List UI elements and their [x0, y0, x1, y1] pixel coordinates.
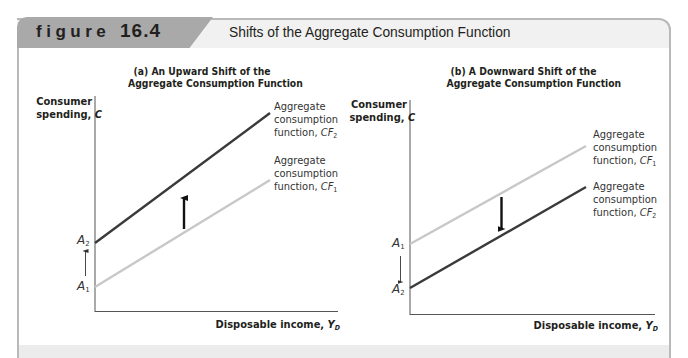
panel-a-lower-point-sub: 1 — [85, 286, 89, 294]
panel-b-subtitle-line2: Aggregate Consumption Function — [447, 77, 601, 89]
panel-a-cf2-label-line1: Aggregate — [274, 100, 338, 113]
panel-b-cf2-label-line2: consumption — [593, 193, 657, 206]
panel-b-xlabel-sub: D — [653, 325, 658, 333]
panel-b-cf2-line — [410, 187, 586, 288]
panel-b-ylabel-line2: spending, — [349, 111, 404, 124]
panel-a-cf1-line — [95, 180, 270, 287]
panel-a-upper-point-sub: 2 — [85, 240, 89, 248]
panel-b-upper-point-sub: 1 — [400, 243, 404, 251]
panel-a-xlabel-sub: D — [335, 324, 340, 332]
panel-a-cf2-label-line3: function, — [274, 126, 318, 139]
panel-b-lower-intercept-label: A2 — [392, 282, 405, 300]
panel-a-x-axis-label: Disposable income, YD — [214, 318, 340, 335]
panel-b-lower-point-var: A — [392, 282, 400, 296]
panel-b-ylabel-line1: Consumer — [349, 98, 407, 111]
panel-a-ylabel-line1: Consumer — [36, 95, 92, 108]
panel-a-upper-intercept-label: A2 — [77, 233, 90, 251]
panel-b-upper-point-var: A — [392, 236, 400, 250]
panel-a-ylabel-var: C — [95, 108, 102, 121]
panel-b-cf1-line — [410, 146, 586, 244]
panel-b-lower-point-sub: 2 — [400, 289, 404, 297]
panel-a-cf2-label: Aggregate consumption function, CF2 — [274, 100, 338, 143]
panel-b-cf1-label: Aggregate consumption function, CF1 — [593, 128, 657, 171]
panel-b-cf1-label-sub: 1 — [652, 160, 656, 168]
panel-b-xlabel-text: Disposable income, — [534, 319, 643, 332]
panel-b-cf2-label-line3: function, — [593, 206, 637, 219]
panel-a-cf1-label-line1: Aggregate — [274, 154, 338, 167]
panel-a-cf1-label-line3: function, — [274, 180, 318, 193]
panel-a-cf2-line — [95, 113, 270, 243]
panel-a-xlabel-text: Disposable income, — [216, 318, 325, 331]
panel-a-cf1-label-line2: consumption — [274, 167, 338, 180]
panel-b-cf1-label-line1: Aggregate — [593, 128, 657, 141]
panel-b-x-axis-label: Disposable income, YD — [528, 319, 658, 336]
plots-svg — [0, 0, 688, 358]
panel-a-cf1-label-var: CF — [321, 180, 334, 193]
panel-a-subtitle-line2: Aggregate Consumption Function — [128, 77, 276, 89]
panel-a-y-axis-label: Consumer spending, C — [36, 95, 92, 121]
panel-b-cf2-label-var: CF — [640, 206, 653, 219]
panel-a-lower-point-var: A — [77, 279, 85, 293]
panel-a-cf1-label: Aggregate consumption function, CF1 — [274, 154, 338, 197]
panel-a-subtitle-line1: (a) An Upward Shift of the — [128, 65, 276, 77]
panel-a-cf2-label-var: CF — [321, 126, 334, 139]
panel-b-upper-intercept-label: A1 — [392, 236, 405, 254]
panel-b-cf1-label-line2: consumption — [593, 141, 657, 154]
panel-a-cf2-label-sub: 2 — [333, 132, 337, 140]
panel-b-cf2-label-line1: Aggregate — [593, 180, 657, 193]
panel-b-cf2-label: Aggregate consumption function, CF2 — [593, 180, 657, 223]
panel-b-cf1-label-var: CF — [640, 154, 653, 167]
panel-a-ylabel-line2: spending, — [36, 108, 91, 121]
panel-b-cf2-label-sub: 2 — [652, 212, 656, 220]
panel-a-cf2-label-line2: consumption — [274, 113, 338, 126]
panel-a-subtitle: (a) An Upward Shift of the Aggregate Con… — [128, 65, 276, 89]
panel-b-cf1-label-line3: function, — [593, 154, 637, 167]
panel-a-lower-intercept-label: A1 — [77, 279, 90, 297]
panel-b-subtitle-line1: (b) A Downward Shift of the — [447, 65, 601, 77]
panel-b-ylabel-var: C — [408, 111, 415, 124]
panel-b-subtitle: (b) A Downward Shift of the Aggregate Co… — [447, 65, 601, 89]
panel-b-y-axis-label: Consumer spending, C — [349, 98, 407, 124]
panel-a-upper-point-var: A — [77, 233, 85, 247]
panel-a-cf1-label-sub: 1 — [333, 186, 337, 194]
